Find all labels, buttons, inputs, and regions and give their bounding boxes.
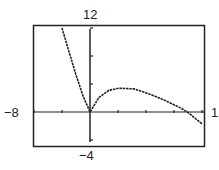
viewing-window-frame [34,26,205,147]
xmin-label: −8 [4,106,19,119]
axis-ticks [34,28,202,140]
ymax-label: 12 [83,8,97,21]
function-curve [62,28,202,124]
ymin-label: −4 [79,149,94,162]
plot-area [0,0,219,170]
xmax-label: 1 [211,106,218,119]
